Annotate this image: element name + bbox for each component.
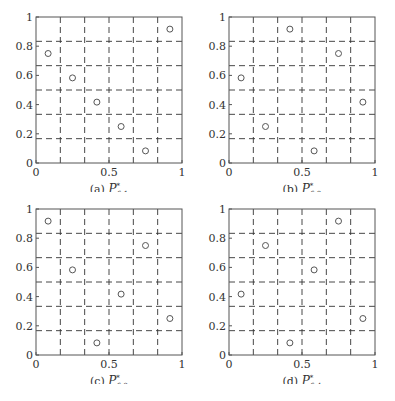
subplot-c: 00.20.40.60.8100.51(c) P*6-3	[0, 192, 195, 384]
svg-text:0.5: 0.5	[293, 358, 311, 371]
svg-text:0.8: 0.8	[209, 40, 227, 53]
svg-text:0.8: 0.8	[16, 232, 34, 245]
svg-text:0.4: 0.4	[209, 291, 227, 304]
data-point-marker	[45, 51, 51, 57]
svg-text:1: 1	[26, 203, 33, 216]
grid-lines	[36, 17, 182, 163]
data-point-marker	[167, 26, 173, 32]
svg-text:0.2: 0.2	[16, 320, 34, 333]
grid-lines	[229, 209, 375, 355]
svg-text:0.4: 0.4	[16, 291, 34, 304]
svg-text:0.6: 0.6	[16, 69, 34, 82]
subplot-a: 00.20.40.60.8100.51(a) P*6-1	[0, 0, 195, 192]
svg-text:1: 1	[219, 11, 226, 24]
data-point-marker	[360, 316, 366, 322]
svg-text:0.5: 0.5	[100, 358, 118, 371]
svg-text:1: 1	[372, 358, 379, 371]
data-point-marker	[311, 148, 317, 154]
grid-lines	[36, 209, 182, 355]
data-point-marker	[70, 75, 76, 81]
data-point-marker	[94, 340, 100, 346]
data-point-marker	[118, 124, 124, 130]
data-point-marker	[336, 218, 342, 224]
data-point-marker	[143, 243, 149, 249]
y-tick-labels: 00.20.40.60.81	[209, 11, 233, 170]
svg-text:1: 1	[179, 358, 186, 371]
subplot-caption: (a) P*6-1	[90, 182, 129, 192]
scatter-plot: 00.20.40.60.8100.51(d) P*6-4	[193, 192, 388, 384]
data-point-marker	[287, 340, 293, 346]
data-point-marker	[143, 148, 149, 154]
svg-text:0.8: 0.8	[209, 232, 227, 245]
data-point-marker	[238, 291, 244, 297]
data-point-marker	[45, 218, 51, 224]
grid-lines	[229, 17, 375, 163]
y-tick-labels: 00.20.40.60.81	[16, 11, 40, 170]
data-point-marker	[70, 267, 76, 273]
svg-text:0: 0	[226, 358, 233, 371]
svg-text:0.6: 0.6	[16, 261, 34, 274]
svg-text:0.8: 0.8	[16, 40, 34, 53]
subplot-b: 00.20.40.60.8100.51(b) P*6-2	[193, 0, 388, 192]
data-point-marker	[311, 267, 317, 273]
scatter-plot: 00.20.40.60.8100.51(c) P*6-3	[0, 192, 195, 384]
svg-text:1: 1	[26, 11, 33, 24]
svg-text:0.2: 0.2	[16, 128, 34, 141]
svg-text:0.4: 0.4	[16, 99, 34, 112]
svg-text:0.5: 0.5	[293, 166, 311, 179]
data-point-marker	[167, 316, 173, 322]
data-point-marker	[336, 51, 342, 57]
data-point-marker	[263, 243, 269, 249]
svg-text:0.6: 0.6	[209, 261, 227, 274]
svg-text:1: 1	[179, 166, 186, 179]
scatter-plot: 00.20.40.60.8100.51(a) P*6-1	[0, 0, 195, 192]
svg-text:0.2: 0.2	[209, 128, 227, 141]
data-point-marker	[287, 26, 293, 32]
subplot-d: 00.20.40.60.8100.51(d) P*6-4	[193, 192, 388, 384]
svg-text:0.6: 0.6	[209, 69, 227, 82]
data-point-marker	[360, 99, 366, 105]
subplot-caption: (b) P*6-2	[283, 182, 322, 192]
data-point-marker	[94, 99, 100, 105]
subplot-caption: (c) P*6-3	[90, 374, 128, 384]
svg-text:0: 0	[226, 166, 233, 179]
subplot-caption: (d) P*6-4	[283, 374, 323, 384]
data-point-marker	[238, 75, 244, 81]
scatter-plot: 00.20.40.60.8100.51(b) P*6-2	[193, 0, 388, 192]
svg-text:1: 1	[219, 203, 226, 216]
svg-text:0.2: 0.2	[209, 320, 227, 333]
y-tick-labels: 00.20.40.60.81	[16, 203, 40, 362]
data-point-marker	[263, 124, 269, 130]
svg-text:1: 1	[372, 166, 379, 179]
svg-text:0: 0	[33, 358, 40, 371]
y-tick-labels: 00.20.40.60.81	[209, 203, 233, 362]
svg-text:0.4: 0.4	[209, 99, 227, 112]
svg-text:0: 0	[33, 166, 40, 179]
data-point-marker	[118, 291, 124, 297]
svg-text:0.5: 0.5	[100, 166, 118, 179]
